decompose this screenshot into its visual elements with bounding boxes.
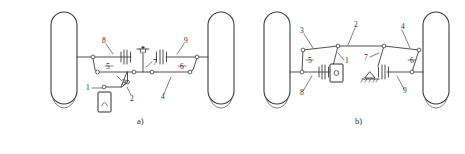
leader-1-b xyxy=(338,53,344,60)
caption-a: a) xyxy=(137,116,144,126)
tie-rod-3-b xyxy=(303,46,338,50)
label-a-3: 3 xyxy=(122,78,126,87)
leader-4-a xyxy=(164,77,171,94)
pivot-lower-left-b xyxy=(300,70,304,74)
drag-link-7-b xyxy=(378,46,384,66)
steering-arm-6-a xyxy=(190,58,197,72)
label-b-7: 7 xyxy=(364,53,368,62)
label-b-3: 3 xyxy=(300,26,304,35)
steering-wheel-7-a-cap xyxy=(141,46,144,49)
figure-root: 8 9 5 6 7 3 2 4 1 a) xyxy=(0,0,465,154)
label-a-5: 5 xyxy=(106,62,110,71)
pivot-tie-node-right-b xyxy=(382,44,386,48)
pivot-control-unit-a xyxy=(102,85,106,89)
schematic-canvas: 8 9 5 6 7 3 2 4 1 a) xyxy=(0,0,465,154)
label-a-9: 9 xyxy=(184,36,188,45)
label-a-1: 1 xyxy=(86,83,90,92)
label-b-9: 9 xyxy=(403,86,407,95)
tire-left-b xyxy=(264,12,290,104)
pivot-tie-mid-left-a xyxy=(132,70,136,74)
label-b-4: 4 xyxy=(401,22,405,31)
leader-9-a xyxy=(177,44,184,54)
label-b-2: 2 xyxy=(354,20,358,29)
label-a-7: 7 xyxy=(153,58,157,67)
pivot-lower-right-b xyxy=(410,70,414,74)
control-unit-box-a xyxy=(98,92,111,112)
pivot-knuckle-left-a xyxy=(91,55,95,59)
label-a-8: 8 xyxy=(102,36,106,45)
caption-b: b) xyxy=(355,116,362,126)
leader-8-a xyxy=(106,44,113,54)
label-b-8: 8 xyxy=(300,88,304,97)
pivot-upper-left-b xyxy=(301,48,305,52)
drag-link-1-b xyxy=(333,46,338,66)
label-a-2: 2 xyxy=(130,94,134,103)
gear-pack-right-a xyxy=(157,50,167,64)
pivot-tie-mid-right-a xyxy=(150,70,154,74)
label-b-6: 6 xyxy=(410,56,414,65)
label-b-1: 1 xyxy=(345,56,349,65)
pivot-tie-node-left-b xyxy=(336,44,340,48)
tire-right-b xyxy=(423,12,449,104)
pivot-tie-left-a xyxy=(96,70,100,74)
leader-7-b xyxy=(370,53,379,57)
tie-rod-4-b xyxy=(384,46,419,50)
pivot-knuckle-right-a xyxy=(195,55,199,59)
diagram-b: 3 2 4 5 6 1 7 8 9 b) xyxy=(264,12,449,126)
leader-8-b xyxy=(303,76,312,91)
steering-arm-5-b xyxy=(302,50,303,72)
tire-right-a xyxy=(208,12,234,104)
leader-2-b xyxy=(348,28,355,45)
diagram-a: 8 9 5 6 7 3 2 4 1 a) xyxy=(51,12,234,126)
label-b-5: 5 xyxy=(308,56,312,65)
label-a-4: 4 xyxy=(161,92,165,101)
leader-4-b xyxy=(402,30,410,48)
tire-left-a xyxy=(51,12,77,104)
pivot-tie-right-a xyxy=(188,70,192,74)
leader-3-b xyxy=(304,34,313,48)
pivot-upper-right-b xyxy=(417,48,421,52)
ground-support-b xyxy=(361,72,379,82)
leader-7-a xyxy=(146,62,152,67)
control-unit-symbol-b xyxy=(334,71,339,76)
label-a-6: 6 xyxy=(180,62,184,71)
